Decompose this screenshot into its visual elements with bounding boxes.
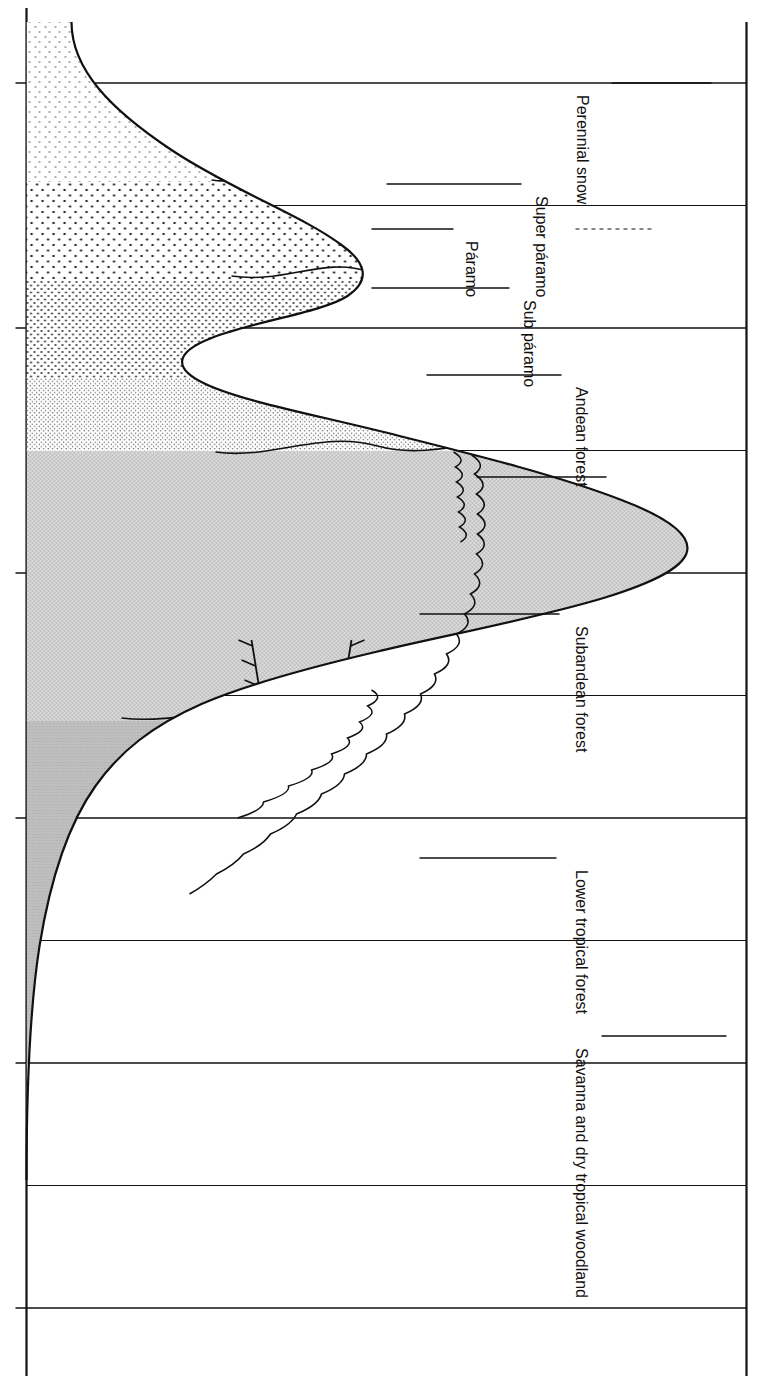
zone-label-sub-paramo: Sub páramo — [520, 300, 537, 387]
zone-label-subandean-forest: Subandean forest — [572, 626, 589, 753]
mountain-body — [0, 0, 771, 1385]
tick-label-3000: 3000 — [0, 553, 1, 593]
tick-label-5000: 5000 — [0, 63, 1, 103]
tick-label-0: 0 — [0, 1303, 1, 1313]
escarpment-hachures — [238, 640, 364, 950]
tick-label-2000: 2000 — [0, 798, 1, 838]
zone-label-super-paramo: Super páramo — [532, 196, 549, 297]
xerophytic-patch-lower-valley — [123, 1060, 215, 1186]
tick-label-4000: 4000 — [0, 308, 1, 348]
zone-band-subandean-forest — [0, 720, 771, 1064]
zone-labels: Perennial snow Super páramo Páramo Sub p… — [371, 83, 726, 1298]
zone-band-savanna — [0, 1185, 771, 1385]
altitude-profile-svg: Perennial snow Super páramo Páramo Sub p… — [0, 0, 771, 1398]
boundary-snow-superparamo — [211, 171, 591, 185]
zone-band-perennial-snow — [0, 0, 771, 182]
axis-tick-labels: 5000 4000 3000 2000 1000 0 — [0, 63, 1, 1313]
zone-band-sub-paramo — [0, 377, 771, 451]
tick-label-1000: 1000 — [0, 1043, 1, 1083]
figure-page: Perennial snow Super páramo Páramo Sub p… — [0, 0, 771, 1398]
zone-label-savanna: Savanna and dry tropical woodland — [572, 1048, 589, 1298]
zone-label-perennial-snow: Perennial snow — [573, 95, 590, 205]
axis-ticks — [15, 83, 26, 1308]
zone-band-lower-tropical-forest — [0, 1063, 771, 1186]
zone-band-super-paramo — [0, 181, 771, 280]
zone-label-andean-forest: Andean forest — [572, 387, 589, 487]
rotated-diagram-wrapper: Perennial snow Super páramo Páramo Sub p… — [0, 0, 771, 1398]
xerophytic-patch-base — [29, 1022, 86, 1152]
xerophytic-patches — [29, 1022, 215, 1186]
zone-band-andean-forest — [0, 450, 771, 721]
boundary-paramo-subparamo — [235, 367, 675, 380]
snow-lenses — [326, 277, 549, 373]
zone-label-lower-tropical-forest: Lower tropical forest — [572, 870, 589, 1015]
